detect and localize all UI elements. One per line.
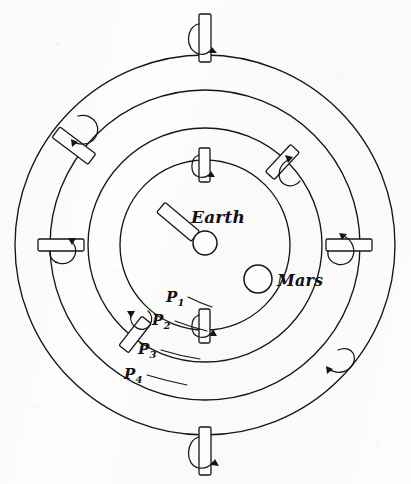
peg-cylinder-icon xyxy=(265,144,299,179)
axle-peg-p3-right xyxy=(326,233,372,265)
rotation-arrow-icon xyxy=(329,349,354,373)
sphere-label-p1: P1 xyxy=(166,288,185,308)
sphere-label-p1-text: P xyxy=(166,288,177,306)
mars-label: Mars xyxy=(277,271,323,290)
peg-cylinder-icon xyxy=(199,309,210,343)
sphere-label-p3-text: P xyxy=(138,340,149,358)
axle-peg-p2-upper-right xyxy=(265,144,300,185)
sphere-label-p3-subscript: 3 xyxy=(149,349,156,360)
sphere-label-p1-subscript: 1 xyxy=(177,297,184,308)
leader-line-p4 xyxy=(147,375,187,385)
peg-cylinder-icon xyxy=(326,239,372,251)
sphere-label-p2-subscript: 2 xyxy=(163,320,170,331)
sphere-label-p4: P4 xyxy=(124,365,143,385)
sphere-label-p3: P3 xyxy=(138,340,157,360)
rotation-arrow-head-icon xyxy=(127,311,135,318)
peg-cylinder-icon xyxy=(52,127,96,164)
sphere-label-p4-text: P xyxy=(124,365,135,383)
leader-line-p3 xyxy=(161,350,200,359)
mars-body xyxy=(244,265,272,293)
figure-page: Earth Mars P1 P2 P3 P4 xyxy=(0,0,411,484)
leader-line-p1 xyxy=(188,297,212,307)
axle-peg-p1-top xyxy=(192,148,215,182)
sphere-label-p2-text: P xyxy=(152,311,163,329)
axle-peg-p3-left xyxy=(38,238,84,264)
earth-body xyxy=(193,231,217,255)
sphere-label-p2: P2 xyxy=(152,311,171,331)
peg-cylinder-icon xyxy=(38,239,84,251)
concentric-spheres-figure xyxy=(0,0,411,484)
earth-label: Earth xyxy=(191,207,245,227)
rotation-arrow-head-icon xyxy=(326,366,333,374)
axle-peg-p1-bottom xyxy=(192,309,217,343)
sphere-label-p4-subscript: 4 xyxy=(135,374,142,385)
